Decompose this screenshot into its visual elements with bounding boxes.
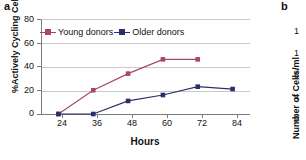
legend-entry-older-donors: Older donors: [114, 27, 185, 37]
data-point-marker: [126, 99, 131, 104]
legend-marker-older-donors-icon: [114, 28, 130, 37]
panel-b-y-axis-title-wrap: Number of Cells/ml: [278, 30, 292, 140]
x-tick-label-24: 24: [49, 118, 75, 128]
legend-marker-young-donors-icon: [40, 28, 56, 37]
y-tick-label-60: 60: [10, 38, 34, 48]
legend-label-older-donors: Older donors: [132, 27, 184, 37]
y-tick-label-40: 40: [10, 61, 34, 71]
data-point-marker: [161, 57, 166, 62]
x-tick-label-36: 36: [84, 118, 110, 128]
series-line-older-donors: [58, 87, 232, 114]
data-point-marker: [230, 87, 235, 92]
panel-a-x-axis-title: Hours: [100, 136, 190, 147]
y-tick-label-0: 0: [10, 108, 34, 118]
panel-b-y-tick-label-2: 8: [294, 70, 306, 80]
series-line-young-donors: [58, 59, 197, 114]
data-point-marker: [56, 112, 61, 117]
panel-b-y-tick-label-0: 1: [294, 26, 306, 36]
panel-a: a %Actively Cycling Cells 80 60 40 20 0: [0, 0, 252, 160]
panel-b-letter: b: [281, 0, 288, 12]
legend-label-young-donors: Young donors: [58, 27, 113, 37]
figure-root: a %Actively Cycling Cells 80 60 40 20 0: [0, 0, 306, 160]
data-point-marker: [91, 112, 96, 117]
x-tick-label-60: 60: [154, 118, 180, 128]
panel-b-y-tick-label-3: 4: [294, 92, 306, 102]
data-point-marker: [195, 57, 200, 62]
panel-a-legend: Young donors Older donors: [40, 25, 185, 39]
panel-b: b Number of Cells/ml 1 1 8 4 0: [268, 0, 306, 160]
x-tick-label-72: 72: [189, 118, 215, 128]
x-tick-label-48: 48: [119, 118, 145, 128]
y-tick-label-80: 80: [10, 14, 34, 24]
data-point-marker: [161, 93, 166, 98]
x-tick-label-84: 84: [224, 118, 250, 128]
data-point-marker: [91, 88, 96, 93]
legend-entry-young-donors: Young donors: [40, 27, 114, 37]
data-point-marker: [126, 71, 131, 76]
panel-b-y-tick-label-1: 1: [294, 48, 306, 58]
panel-b-y-tick-label-4: 0: [294, 114, 306, 124]
data-point-marker: [195, 84, 200, 89]
y-tick-label-20: 20: [10, 85, 34, 95]
